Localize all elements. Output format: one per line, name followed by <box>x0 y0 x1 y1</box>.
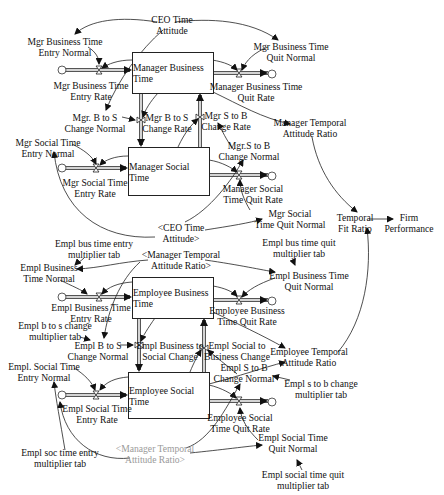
stock-label: Manager Social Time <box>129 161 209 183</box>
stock-manager-business-time[interactable]: Manager Business Time <box>132 52 214 94</box>
cloud-icon <box>58 391 66 399</box>
var-empl-st-entry-rate[interactable]: Empl Social Time Entry Rate <box>62 403 131 425</box>
var-mgr-st-quit-normal[interactable]: Mgr Social Time Quit Normal <box>254 208 325 230</box>
var-employee-temporal-attitude-ratio[interactable]: Employee Temporal Attitude Ratio <box>270 346 348 368</box>
var-empl-s-to-b-change-normal[interactable]: Empl S to B Change Normal <box>213 362 274 384</box>
var-mgr-bt-entry-rate[interactable]: Mgr Business Time Entry Rate <box>53 80 128 102</box>
var-empl-bus-time-quit-mult-tab[interactable]: Empl bus time quit multiplier tab <box>262 237 335 259</box>
cloud-icon <box>268 172 276 180</box>
var-mgr-b-to-s-change-normal[interactable]: Mgr. B to S Change Normal <box>64 112 125 134</box>
var-empl-st-quit-rate[interactable]: Employee Social Time Quit Rate <box>207 412 272 434</box>
var-mgr-st-entry-rate[interactable]: Mgr Social Time Entry Rate <box>62 177 127 199</box>
stock-manager-social-time[interactable]: Manager Social Time <box>128 147 210 196</box>
cloud-icon <box>268 70 276 78</box>
cloud-icon <box>58 164 66 172</box>
var-mgr-st-entry-normal[interactable]: Mgr Social Time Entry Normal <box>15 137 80 159</box>
var-empl-soc-time-entry-mult-tab[interactable]: Empl soc time entry multiplier tab <box>21 447 99 469</box>
var-mgr-bt-quit-rate[interactable]: Manager Business Time Quit Rate <box>210 81 303 103</box>
cloud-icon <box>268 297 276 305</box>
stock-label: Employee Business Time <box>133 287 213 309</box>
cloud-icon <box>58 293 66 301</box>
cloud-icon <box>58 66 66 74</box>
var-empl-b-to-s-change-normal[interactable]: Empl B to S Change Normal <box>67 340 128 362</box>
var-manager-temporal-attitude-ratio[interactable]: Manager Temporal Attitude Ratio <box>274 117 347 139</box>
var-manager-temporal-attitude-ratio-shadow2[interactable]: <Manager Temporal Attitude Ratio> <box>116 443 194 465</box>
var-empl-bt-quit-normal[interactable]: Empl Business Time Quit Normal <box>269 270 348 292</box>
var-empl-social-to-business-change[interactable]: Empl Social to Business Change <box>204 340 270 362</box>
var-mgr-st-quit-rate[interactable]: Manager Social Time Quit Rate <box>223 183 283 205</box>
var-firm-performance[interactable]: Firm Performance <box>384 212 433 234</box>
var-empl-st-entry-normal[interactable]: Empl. Social Time Entry Normal <box>8 361 80 383</box>
var-empl-bt-normal[interactable]: Empl Business Time Normal <box>20 262 77 284</box>
var-mgr-b-to-s-change-rate[interactable]: Mgr B to S Change Rate <box>142 112 191 134</box>
var-mgr-s-to-b-change-rate[interactable]: Mgr S to B Change Rate <box>201 110 250 132</box>
stock-label: Employee Social Time <box>129 385 209 407</box>
stock-employee-business-time[interactable]: Employee Business Time <box>132 277 214 319</box>
var-empl-social-time-quit-mult-tab[interactable]: Empl social time quit multiplier tab <box>262 469 344 491</box>
var-temporal-fit-ratio[interactable]: Temporal Fit Ratio <box>337 212 374 234</box>
var-mgr-bt-quit-normal[interactable]: Mgr Business Time Quit Normal <box>253 41 328 63</box>
var-mgr-s-to-b-change-normal[interactable]: Mgr.S to B Change Normal <box>218 140 279 162</box>
var-empl-b-to-s-change-mult-tab[interactable]: Empl b to s change multiplier tab <box>18 320 92 342</box>
var-empl-s-to-b-change-mult-tab[interactable]: Empl s to b change multiplier tab <box>284 378 358 400</box>
stock-employee-social-time[interactable]: Employee Social Time <box>128 372 210 419</box>
cloud-icon <box>268 398 276 406</box>
var-empl-business-to-social-change[interactable]: Empl Business to Social Change <box>136 340 203 362</box>
stock-label: Manager Business Time <box>133 62 213 84</box>
var-empl-bt-quit-rate[interactable]: Employee Business Time Quit Rate <box>209 305 284 327</box>
var-empl-st-quit-normal[interactable]: Empl Social Time Quit Normal <box>258 432 327 454</box>
var-empl-bus-time-entry-mult-tab[interactable]: Empl bus time entry multiplier tab <box>55 238 133 260</box>
var-manager-temporal-attitude-ratio-shadow[interactable]: <Manager Temporal Attitude Ratio> <box>142 249 220 271</box>
var-ceo-time-attitude[interactable]: CEO Time Attitude <box>151 14 192 36</box>
var-ceo-time-attitude-shadow[interactable]: <CEO Time Attitude> <box>158 222 205 244</box>
var-mgr-bt-entry-normal[interactable]: Mgr Business Time Entry Normal <box>27 36 102 58</box>
